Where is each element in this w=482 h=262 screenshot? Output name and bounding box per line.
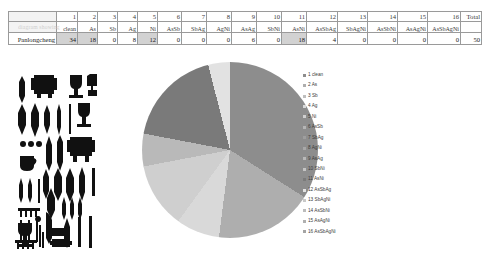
pie-chart — [142, 62, 318, 238]
frequency-table-container: 1 2 3 4 5 6 7 8 9 10 11 12 13 14 15 16 T — [8, 11, 451, 45]
pie-legend: 1 clean2 As3 Sb4 Ag5 Ni6 AsSb7 SbAg8 AgN… — [303, 70, 393, 237]
col-label: Ni — [138, 22, 158, 33]
legend-swatch-icon — [303, 220, 306, 223]
legend-item-label: 2 As — [308, 80, 317, 90]
legend-swatch-icon — [303, 136, 306, 139]
col-label: AsNi — [282, 22, 307, 33]
legend-swatch-icon — [303, 157, 306, 160]
legend-item-label: 5 Ni — [308, 112, 316, 122]
col-label: AsAgNi — [398, 22, 428, 33]
table-cell: 0 — [158, 33, 182, 45]
col-number: 10 — [257, 12, 282, 22]
legend-swatch-icon — [303, 74, 306, 77]
col-number: 9 — [232, 12, 257, 22]
legend-swatch-icon — [303, 126, 306, 129]
legend-item: 8 AgNi — [303, 143, 393, 153]
col-label: AsSbAgNi — [428, 22, 461, 33]
col-label: SbAg — [182, 22, 207, 33]
col-label: AsAg — [232, 22, 257, 33]
table-cell: 18 — [78, 33, 98, 45]
col-number: 6 — [158, 12, 182, 22]
col-label: AsSbNi — [368, 22, 398, 33]
legend-swatch-icon — [303, 178, 306, 181]
legend-item: 11 AsNi — [303, 174, 393, 184]
legend-swatch-icon — [303, 189, 306, 192]
table-cell: 0 — [368, 33, 398, 45]
col-label: AsSbAg — [307, 22, 338, 33]
legend-item: 5 Ni — [303, 112, 393, 122]
col-number: 2 — [78, 12, 98, 22]
legend-item-label: 1 clean — [308, 70, 323, 80]
total-header-blank — [461, 22, 482, 33]
legend-item-label: 10 SbNi — [308, 164, 325, 174]
col-label: Ag — [118, 22, 138, 33]
table-cell: 8 — [118, 33, 138, 45]
legend-item-label: 8 AgNi — [308, 143, 322, 153]
artifact-silhouette-plate — [12, 72, 98, 250]
col-number: 14 — [368, 12, 398, 22]
total-header: Total — [461, 12, 482, 22]
legend-item-label: 4 Ag — [308, 101, 317, 111]
col-number: 11 — [282, 12, 307, 22]
legend-item: 6 AsSb — [303, 122, 393, 132]
table-cell: 34 — [57, 33, 78, 45]
frequency-table: 1 2 3 4 5 6 7 8 9 10 11 12 13 14 15 16 T — [8, 11, 482, 45]
legend-item-label: 16 AsSbAgNi — [308, 227, 336, 237]
legend-swatch-icon — [303, 105, 306, 108]
table-cell: 12 — [138, 33, 158, 45]
col-label: SbNi — [257, 22, 282, 33]
legend-swatch-icon — [303, 168, 306, 171]
legend-item: 7 SbAg — [303, 133, 393, 143]
legend-item: 14 AsSbNi — [303, 206, 393, 216]
legend-item: 15 AsAgNi — [303, 216, 393, 226]
table-cell: 0 — [207, 33, 232, 45]
col-number: 4 — [118, 12, 138, 22]
legend-swatch-icon — [303, 95, 306, 98]
col-number: 8 — [207, 12, 232, 22]
legend-item-label: 7 SbAg — [308, 133, 323, 143]
table-cell: 0 — [338, 33, 368, 45]
legend-item: 4 Ag — [303, 101, 393, 111]
legend-swatch-icon — [303, 230, 306, 233]
table-cell: 0 — [428, 33, 461, 45]
legend-swatch-icon — [303, 199, 306, 202]
col-number: 3 — [98, 12, 118, 22]
legend-item-label: 15 AsAgNi — [308, 216, 330, 226]
legend-item: 10 SbNi — [303, 164, 393, 174]
legend-item: 12 AsSbAg — [303, 185, 393, 195]
legend-item-label: 11 AsNi — [308, 174, 324, 184]
table-total-cell: 50 — [461, 33, 482, 45]
table-header-labels: clean As Sb Ag Ni AsSb SbAg AgNi AsAg Sb… — [9, 22, 482, 33]
col-number: 15 — [398, 12, 428, 22]
legend-item-label: 3 Sb — [308, 91, 318, 101]
legend-swatch-icon — [303, 84, 306, 87]
row-label: Panlongcheng — [9, 33, 57, 45]
legend-item: 9 AsAg — [303, 154, 393, 164]
col-number: 5 — [138, 12, 158, 22]
col-label: SbAgNi — [338, 22, 368, 33]
table-corner-cell-lower — [9, 22, 57, 33]
legend-item-label: 9 AsAg — [308, 154, 323, 164]
pie-chart-container — [142, 62, 318, 248]
col-label: Sb — [98, 22, 118, 33]
table-corner-cell — [9, 12, 57, 22]
legend-item: 1 clean — [303, 70, 393, 80]
col-number: 7 — [182, 12, 207, 22]
legend-item-label: 6 AsSb — [308, 122, 323, 132]
col-number: 12 — [307, 12, 338, 22]
table-cell: 0 — [98, 33, 118, 45]
table-header-numbers: 1 2 3 4 5 6 7 8 9 10 11 12 13 14 15 16 T — [9, 12, 482, 22]
legend-swatch-icon — [303, 115, 306, 118]
legend-item-label: 12 AsSbAg — [308, 185, 331, 195]
legend-item: 2 As — [303, 80, 393, 90]
col-label: AsSb — [158, 22, 182, 33]
table-cell: 6 — [232, 33, 257, 45]
col-number: 13 — [338, 12, 368, 22]
legend-item: 13 SbAgNi — [303, 195, 393, 205]
legend-item: 3 Sb — [303, 91, 393, 101]
legend-item-label: 13 SbAgNi — [308, 195, 330, 205]
col-label: AgNi — [207, 22, 232, 33]
table-cell: 18 — [282, 33, 307, 45]
legend-item-label: 14 AsSbNi — [308, 206, 330, 216]
